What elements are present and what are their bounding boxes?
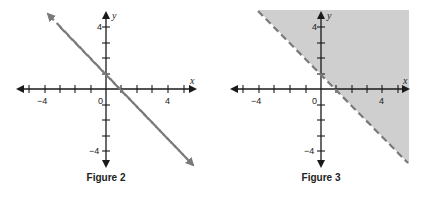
y-tick-label-4: 4 <box>97 22 102 32</box>
x-axis-label: x <box>189 75 195 86</box>
figure-3-graph: y x 4 −4 −4 4 0 <box>232 10 409 166</box>
x-tick-label-neg4: −4 <box>251 96 261 106</box>
origin-label: 0 <box>98 96 103 106</box>
figures-canvas: y x 4 −4 −4 4 0 <box>0 0 421 198</box>
x-tick-label-neg4: −4 <box>37 96 47 106</box>
y-tick-label-neg4: −4 <box>89 146 99 156</box>
origin-label: 0 <box>312 96 317 106</box>
figure-2-caption: Figure 2 <box>56 172 156 183</box>
figure-2-graph: y x 4 −4 −4 4 0 <box>18 10 195 166</box>
x-axis-label: x <box>402 75 408 86</box>
y-tick-label-4: 4 <box>312 22 317 32</box>
figure-3-caption: Figure 3 <box>271 172 371 183</box>
y-axis-label: y <box>111 10 117 21</box>
y-axis-label: y <box>326 10 332 21</box>
x-tick-label-4: 4 <box>165 96 170 106</box>
x-tick-label-4: 4 <box>379 96 384 106</box>
y-tick-label-neg4: −4 <box>304 146 314 156</box>
